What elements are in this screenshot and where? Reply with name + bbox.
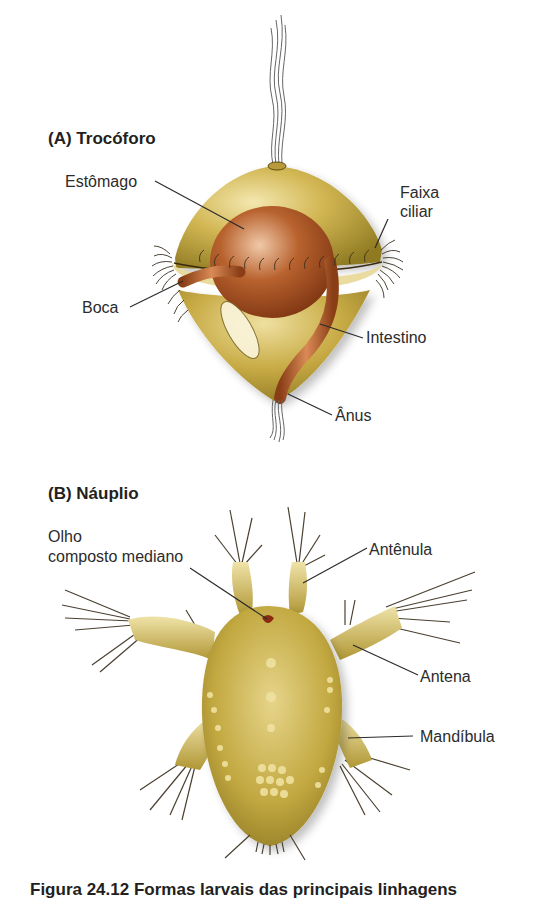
label-antenna: Antena xyxy=(420,667,471,686)
apical-tuft xyxy=(270,15,286,165)
label-median-eye-line2: composto mediano xyxy=(48,547,183,566)
label-antennule: Antênula xyxy=(369,540,432,559)
panel-b-title: (B) Náuplio xyxy=(48,484,139,504)
label-mandible: Mandíbula xyxy=(420,727,495,746)
label-ciliary-band-line1: Faixa xyxy=(400,183,439,202)
panel-a-title: (A) Trocóforo xyxy=(48,129,156,149)
label-stomach: Estômago xyxy=(65,172,137,191)
label-intestine: Intestino xyxy=(366,328,426,347)
label-anus: Ânus xyxy=(335,406,371,425)
antennule-right xyxy=(289,562,307,615)
figure-caption: Figura 24.12 Formas larvais das principa… xyxy=(30,880,457,900)
label-mouth: Boca xyxy=(82,298,118,317)
trochophore-illustration xyxy=(130,15,403,442)
antenna-right xyxy=(330,606,402,660)
stomach xyxy=(210,206,334,318)
label-ciliary-band-line2: ciliar xyxy=(400,202,433,221)
anal-tuft xyxy=(270,400,284,442)
antenna-left xyxy=(128,616,215,660)
label-median-eye-line1: Olho xyxy=(48,527,82,546)
